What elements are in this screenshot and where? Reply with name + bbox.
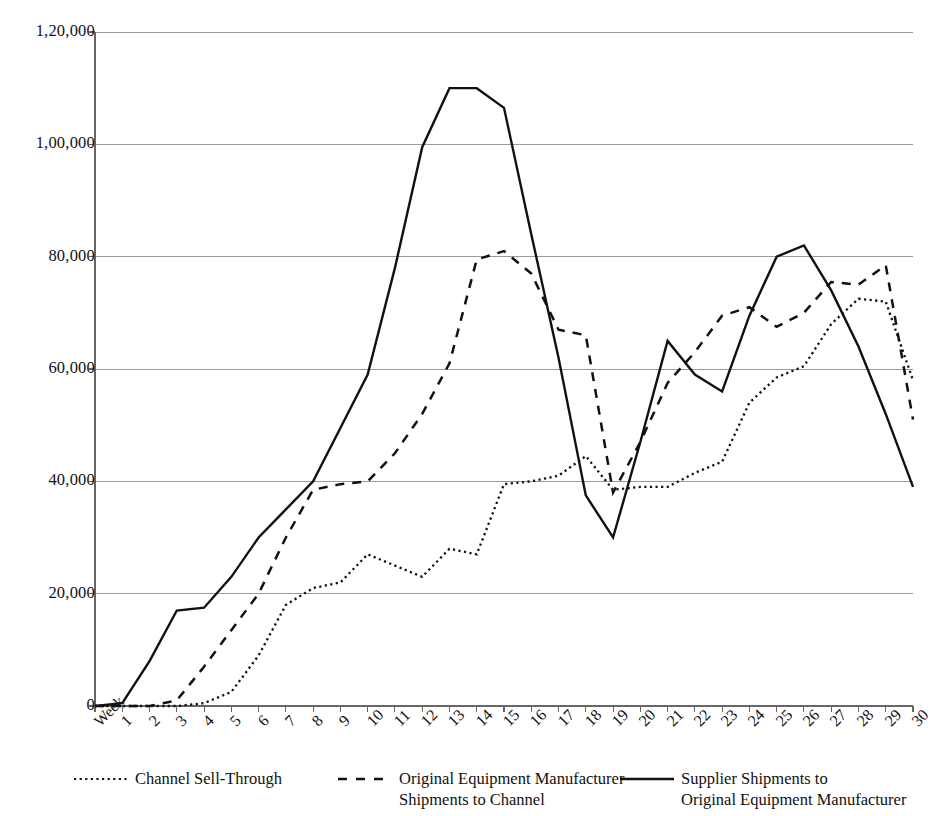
y-axis-tick-label: 20,000 <box>9 585 95 601</box>
y-axis-tick-label: 80,000 <box>9 248 95 264</box>
y-axis-tick-label: 1,00,000 <box>9 135 95 151</box>
legend-swatch-dotted-icon <box>74 772 132 786</box>
y-axis-tick-label: 1,20,000 <box>9 23 95 39</box>
y-axis-tick-label: 0 <box>9 697 95 713</box>
y-axis-tick-label: 40,000 <box>9 472 95 488</box>
series-line <box>95 88 913 706</box>
series-line <box>95 251 913 706</box>
legend-label: Supplier Shipments to Original Equipment… <box>681 768 906 810</box>
legend-item-channel-sell-through: Channel Sell-Through <box>74 768 282 789</box>
plot-canvas <box>0 0 925 760</box>
y-axis-tick-label: 60,000 <box>9 360 95 376</box>
plot-area <box>0 0 925 760</box>
legend-item-supplier-shipments-to-oem: Supplier Shipments to Original Equipment… <box>620 768 906 810</box>
series-line <box>95 299 913 706</box>
legend-swatch-solid-icon <box>620 772 678 786</box>
legend-item-oem-shipments-to-channel: Original Equipment Manufacturer Shipment… <box>338 768 624 810</box>
y-axis-tick-labels: 020,00040,00060,00080,0001,00,0001,20,00… <box>0 0 95 760</box>
chart-legend: Channel Sell-Through Original Equipment … <box>0 768 925 816</box>
legend-label: Original Equipment Manufacturer Shipment… <box>399 768 624 810</box>
legend-swatch-dashed-icon <box>338 772 396 786</box>
legend-label: Channel Sell-Through <box>135 768 282 789</box>
